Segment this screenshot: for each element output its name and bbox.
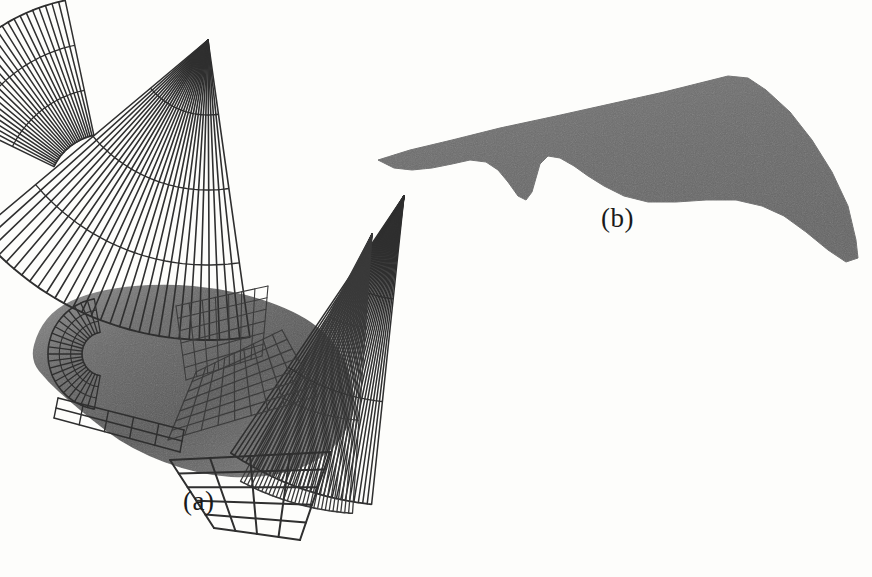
figure-container: (a) (b)	[0, 0, 872, 577]
fan-left	[0, 0, 94, 166]
subplot-a-wireframe	[0, 0, 404, 540]
fan-radial-line	[52, 4, 90, 137]
subplot-b-solid	[378, 76, 858, 262]
subplot-a-caption: (a)	[183, 486, 214, 517]
fan-radial-line	[65, 0, 94, 135]
fan-radial-line	[0, 38, 70, 147]
solid-planform	[378, 76, 858, 262]
subplot-b-caption: (b)	[601, 203, 634, 234]
figure-svg-canvas	[0, 0, 872, 577]
